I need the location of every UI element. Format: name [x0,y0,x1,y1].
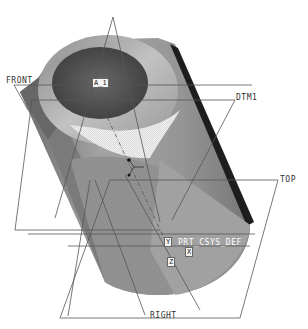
graphics-viewport[interactable]: FRONT DTM1 TOP RIGHT A_1 PRT_CSYS_DEF Y … [0,0,308,329]
front-plane-label[interactable]: FRONT [6,76,33,85]
model-canvas[interactable] [0,0,308,329]
axis-a1-label[interactable]: A_1 [92,78,109,88]
dtm1-plane-label[interactable]: DTM1 [236,93,257,102]
right-plane-label[interactable]: RIGHT [150,311,177,320]
csys-z-label: Z [167,257,175,267]
csys-label[interactable]: PRT_CSYS_DEF [178,238,242,247]
csys-x-label: X [185,247,193,257]
csys-y-label: Y [164,237,172,247]
top-plane-label[interactable]: TOP [280,175,296,184]
part-body[interactable] [20,35,254,295]
